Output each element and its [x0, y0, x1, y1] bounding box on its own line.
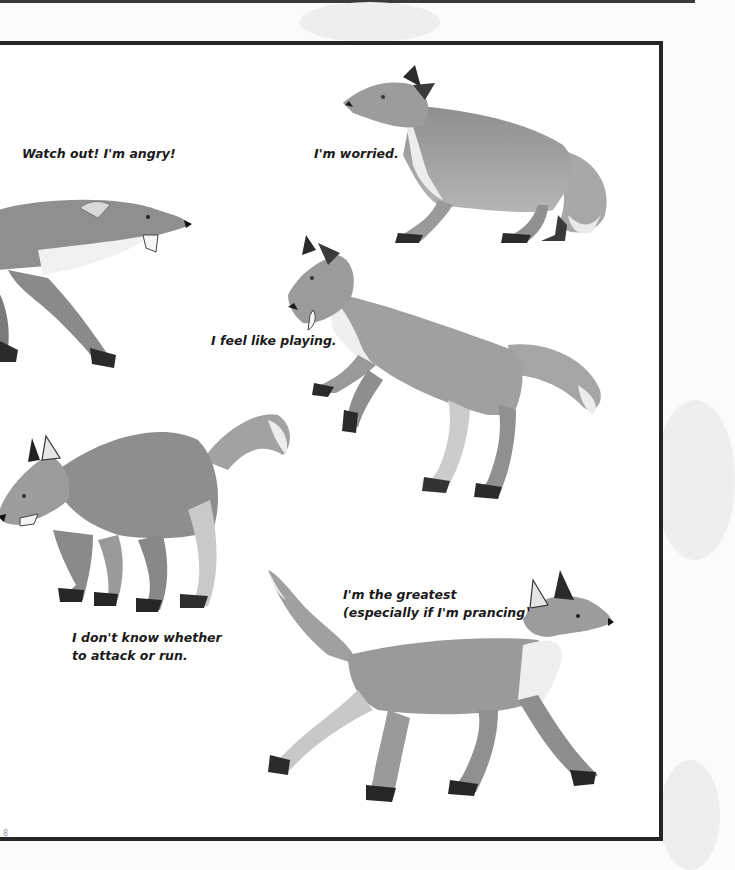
- caption-angry: Watch out! I'm angry!: [22, 145, 176, 163]
- illustration-frame: Watch out! I'm angry! I'm worried. I fee…: [0, 41, 663, 841]
- greatest-fox-illustration: [258, 560, 623, 820]
- background-smudge: [660, 760, 720, 870]
- playing-fox-illustration: [288, 235, 608, 515]
- worried-fox-illustration: [343, 65, 623, 245]
- page-number: 8: [3, 829, 8, 838]
- background-smudge: [655, 400, 735, 560]
- caption-unsure: I don't know whether to attack or run.: [72, 629, 222, 665]
- background-smudge: [300, 2, 440, 42]
- angry-fox-illustration: [0, 190, 198, 380]
- unsure-fox-illustration: [0, 400, 298, 620]
